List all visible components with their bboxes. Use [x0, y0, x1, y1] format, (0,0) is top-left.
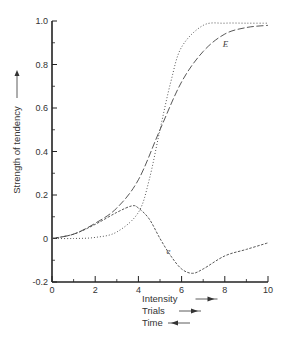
x-tick-label: 2: [93, 285, 98, 295]
y-tick-label: 0: [43, 234, 48, 244]
curve-label-E: E: [222, 39, 229, 49]
x-axis-titles: IntensityTrialsTime: [142, 293, 218, 328]
curve-label-e: e: [166, 246, 170, 256]
x-tick-label: 6: [179, 285, 184, 295]
series-E-line: [52, 25, 268, 238]
x-axis-label-intensity: Intensity: [142, 293, 178, 304]
y-tick-label: -0.2: [32, 277, 48, 287]
arrow-left-icon: [171, 321, 178, 326]
series-e-line: [52, 206, 268, 274]
y-tick-label: 1.0: [35, 16, 48, 26]
x-tick-label: 0: [49, 285, 54, 295]
y-axis-ticks: -0.200.20.40.60.81.0: [32, 16, 57, 287]
y-tick-label: 0.2: [35, 190, 48, 200]
x-tick-label: 8: [222, 285, 227, 295]
y-axis-arrow-icon: [15, 70, 20, 76]
y-tick-label: 0.6: [35, 103, 48, 113]
x-axis-label-trials: Trials: [142, 305, 165, 316]
y-axis-label: Strength of tendency: [11, 106, 22, 194]
x-tick-label: 4: [136, 285, 141, 295]
y-axis-title: Strength of tendency: [11, 70, 22, 194]
y-tick-label: 0.8: [35, 60, 48, 70]
curve-labels: Ee: [166, 39, 228, 256]
x-axis-label-time: Time: [142, 317, 163, 328]
arrow-right-icon: [191, 309, 198, 314]
chart: -0.200.20.40.60.81.0 0246810 Ee Strength…: [0, 0, 282, 345]
arrow-right-icon: [208, 297, 215, 302]
plot-series: [52, 23, 268, 273]
y-tick-label: 0.4: [35, 147, 48, 157]
x-tick-label: 10: [263, 285, 273, 295]
